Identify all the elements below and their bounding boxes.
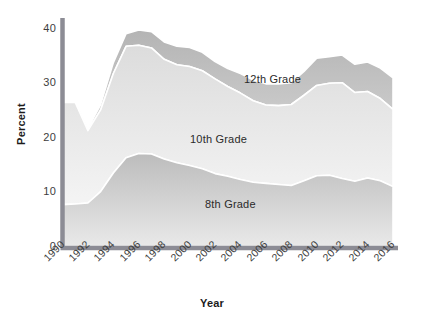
y-tick-label: 40 (30, 22, 56, 34)
stacked-area-plot (0, 0, 424, 317)
chart-container: 010203040 199019921994199619982000200220… (0, 0, 424, 317)
series-label: 8th Grade (205, 198, 256, 210)
y-tick-label: 30 (30, 76, 56, 88)
series-label: 12th Grade (244, 73, 301, 85)
y-tick-label: 20 (30, 131, 56, 143)
x-axis-title: Year (0, 297, 424, 309)
series-label: 10th Grade (190, 133, 247, 145)
y-tick-label: 10 (30, 185, 56, 197)
y-axis-title: Percent (15, 89, 27, 159)
